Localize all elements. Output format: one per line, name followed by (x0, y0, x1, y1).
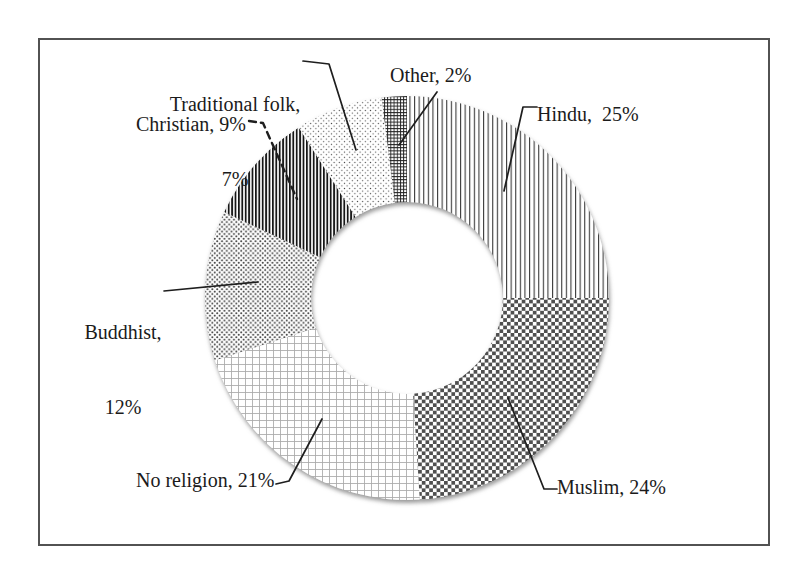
slice-label-traditional-folk: Traditional folk, 7% (150, 42, 320, 242)
figure: Traditional folk, 7% Other, 2% Hindu, 25… (0, 0, 810, 578)
slice-label-christian: Christian, 9% (136, 112, 246, 137)
slice-label-buddhist: Buddhist, 12% (64, 270, 182, 470)
slice-label-hindu: Hindu, 25% (537, 102, 639, 127)
slice-label-line: 7% (150, 167, 320, 192)
slice-muslim (413, 298, 609, 500)
slice-label-line: 12% (64, 395, 182, 420)
slice-label-no-religion: No religion, 21% (136, 468, 274, 493)
slice-label-other: Other, 2% (390, 63, 471, 88)
slice-label-muslim: Muslim, 24% (557, 475, 666, 500)
slice-label-line: Buddhist, (64, 320, 182, 345)
